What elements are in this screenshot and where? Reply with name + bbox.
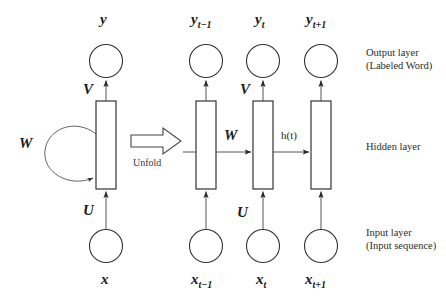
unfolded-output-node-2 — [305, 45, 338, 78]
unfolded-output-label-2: yt+1 — [306, 12, 326, 30]
rnn-unfold-diagram: y V W U x Unfold yt−1 yt yt+1 xt−1 xt xt… — [0, 0, 446, 301]
folded-weight-v-label: V — [83, 82, 93, 97]
unfolded-input-label-1: xt — [256, 272, 266, 290]
folded-input-node — [90, 230, 123, 263]
unfolded-hidden-rect-0 — [196, 101, 216, 189]
unfolded-output-label-0: yt−1 — [191, 12, 212, 30]
unfolded-weight-v-label: V — [240, 82, 250, 97]
hidden-layer-annotation-line1: Hidden layer — [366, 140, 421, 153]
output-layer-annotation-line1: Output layer — [366, 46, 432, 59]
unfolded-hidden-rect-2 — [311, 101, 331, 189]
unfolded-output-node-0 — [190, 45, 223, 78]
unfolded-output-node-1 — [247, 45, 280, 78]
folded-weight-u-label: U — [83, 203, 94, 218]
unfold-caption: Unfold — [133, 158, 161, 168]
unfolded-input-node-1 — [247, 230, 280, 263]
output-layer-annotation-line2: (Labeled Word) — [366, 59, 432, 72]
folded-input-label: x — [101, 272, 109, 287]
unfolded-input-node-0 — [190, 230, 223, 263]
folded-output-label: y — [100, 12, 107, 27]
unfolded-rnn-group — [183, 45, 338, 263]
input-layer-annotation-line2: (Input sequence) — [366, 239, 436, 252]
hidden-state-label: h(t) — [281, 130, 297, 141]
unfolded-hidden-rect-1 — [253, 101, 273, 189]
unfolded-input-label-0: xt−1 — [191, 272, 212, 290]
output-layer-annotation: Output layer (Labeled Word) — [366, 46, 432, 72]
folded-output-node — [90, 45, 123, 78]
unfolded-weight-w-label: W — [224, 128, 237, 143]
input-layer-annotation-line1: Input layer — [366, 226, 436, 239]
folded-weight-w-label: W — [19, 136, 32, 151]
hidden-layer-annotation: Hidden layer — [366, 140, 421, 153]
folded-hidden-rect — [96, 101, 116, 189]
unfolded-output-label-1: yt — [255, 12, 264, 30]
unfold-arrow-icon — [131, 128, 181, 154]
unfolded-input-label-2: xt+1 — [305, 272, 326, 290]
folded-rnn-group — [45, 45, 123, 263]
unfolded-input-node-2 — [305, 230, 338, 263]
unfolded-weight-u-label: U — [237, 205, 248, 220]
folded-recurrent-loop — [45, 126, 96, 181]
input-layer-annotation: Input layer (Input sequence) — [366, 226, 436, 252]
